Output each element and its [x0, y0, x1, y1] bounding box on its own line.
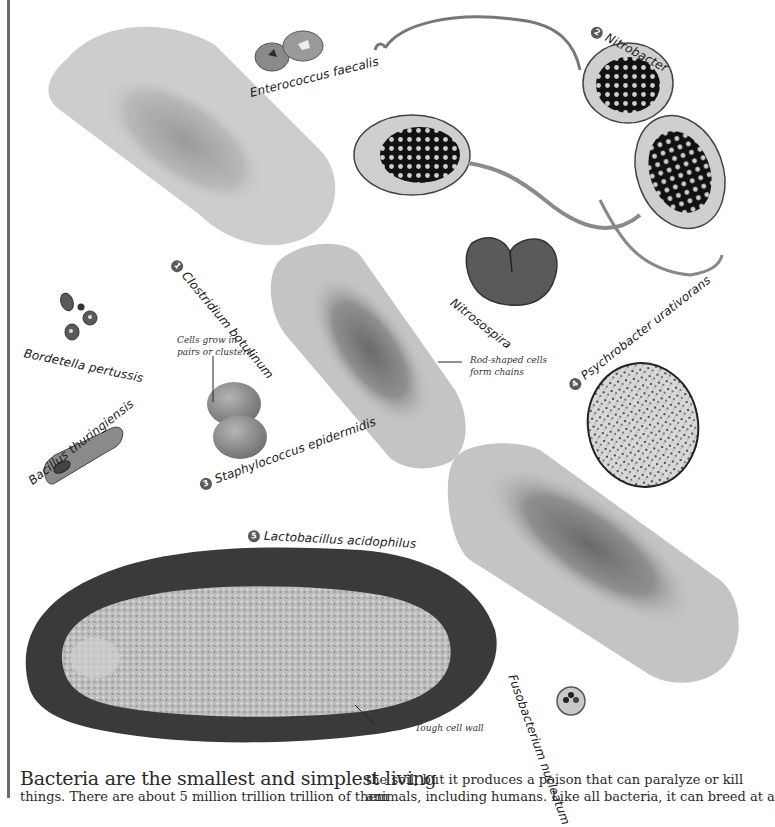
bordetella-cells — [58, 291, 97, 340]
fusobacterium-cell — [557, 687, 585, 715]
clostridium-middle-rod — [271, 244, 466, 469]
caption-rod-shaped: Rod-shaped cells form chains — [470, 354, 547, 378]
psychrobacter-cell — [578, 354, 708, 495]
nitrobacter-cells — [354, 17, 740, 275]
body-right-line-1: the soil, but it produces a poison that … — [366, 772, 743, 787]
lactobacillus-cell — [26, 548, 497, 743]
enterococcus-cells — [255, 31, 323, 71]
nitrosospira-cell — [466, 238, 556, 306]
clostridium-top-rod — [48, 27, 335, 245]
body-left-line-2: things. There are about 5 million trilli… — [20, 789, 388, 804]
number-badge-5: 5 — [248, 530, 261, 543]
caption-cells-grow: Cells grow in pairs or clusters — [177, 334, 252, 358]
body-right-line-2: animals, including humans. Like all bact… — [366, 789, 775, 804]
caption-tough-wall: Tough cell wall — [415, 722, 484, 734]
